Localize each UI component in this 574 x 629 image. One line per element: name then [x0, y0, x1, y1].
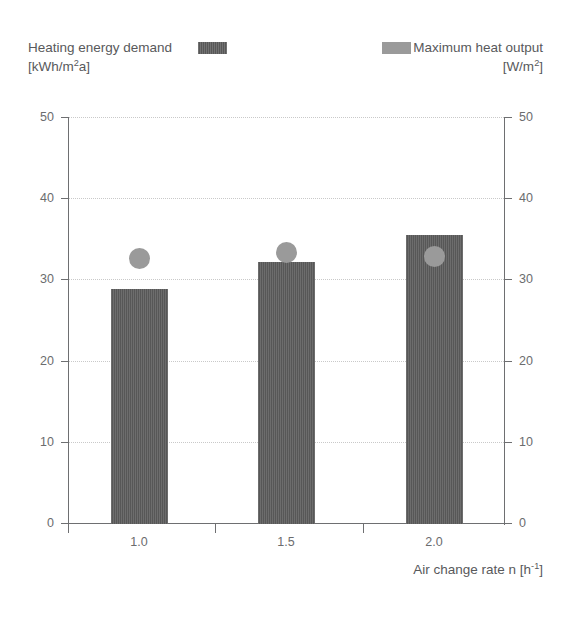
legend-entry-heating-energy-demand: Heating energy demand [kWh/m2a]	[28, 38, 172, 76]
bar-heating-energy-demand	[111, 289, 168, 524]
y-axis-left-line	[68, 117, 69, 525]
y-axis-tick	[61, 442, 68, 443]
y-axis-tick	[505, 117, 512, 118]
y-axis-label-left: 10	[14, 436, 54, 449]
bar-heating-energy-demand	[258, 262, 315, 524]
dot-swatch-icon	[382, 42, 411, 54]
y-axis-tick	[61, 117, 68, 118]
gridline	[69, 198, 504, 200]
bar-swatch-icon	[198, 42, 227, 54]
gridline	[69, 117, 504, 119]
y-axis-tick	[505, 361, 512, 362]
x-axis-title: Air change rate n [h-1]	[413, 562, 543, 577]
y-axis-label-right: 40	[519, 192, 559, 205]
marker-maximum-heat-output	[424, 246, 445, 267]
y-axis-label-right: 30	[519, 273, 559, 286]
y-axis-label-left: 30	[14, 273, 54, 286]
x-axis-title-exponent: -1	[531, 561, 539, 571]
y-axis-right-line	[504, 117, 505, 525]
x-axis-tick	[215, 524, 216, 533]
y-axis-tick	[61, 279, 68, 280]
y-axis-tick	[505, 523, 512, 524]
x-axis-label: 1.0	[109, 536, 169, 549]
marker-maximum-heat-output	[129, 248, 150, 269]
y-axis-tick	[505, 279, 512, 280]
x-axis-tick	[363, 524, 364, 533]
x-axis-tick-origin	[68, 524, 69, 533]
marker-maximum-heat-output	[276, 242, 297, 263]
y-axis-label-left: 20	[14, 355, 54, 368]
legend-unit-maximum-heat-output: [W/m2]	[413, 57, 543, 76]
y-axis-tick	[505, 198, 512, 199]
legend-label-heating-energy-demand: Heating energy demand	[28, 40, 172, 55]
y-axis-label-right: 20	[519, 355, 559, 368]
legend-label-maximum-heat-output: Maximum heat output	[413, 40, 543, 55]
bar-heating-energy-demand	[406, 235, 463, 524]
x-axis-label: 1.5	[256, 536, 316, 549]
chart-plot-area: 00101020203030404050501.01.52.0	[68, 118, 505, 524]
y-axis-tick	[61, 361, 68, 362]
chart-legend: Heating energy demand [kWh/m2a] Maximum …	[0, 30, 574, 90]
y-axis-tick	[505, 442, 512, 443]
legend-unit-heating-energy-demand: [kWh/m2a]	[28, 57, 172, 76]
y-axis-label-left: 50	[14, 111, 54, 124]
x-axis-label: 2.0	[404, 536, 464, 549]
y-axis-label-left: 40	[14, 192, 54, 205]
y-axis-label-right: 0	[519, 517, 559, 530]
y-axis-tick	[61, 198, 68, 199]
legend-entry-maximum-heat-output: Maximum heat output [W/m2]	[413, 38, 543, 76]
y-axis-label-left: 0	[14, 517, 54, 530]
y-axis-tick	[61, 523, 68, 524]
y-axis-label-right: 10	[519, 436, 559, 449]
y-axis-label-right: 50	[519, 111, 559, 124]
